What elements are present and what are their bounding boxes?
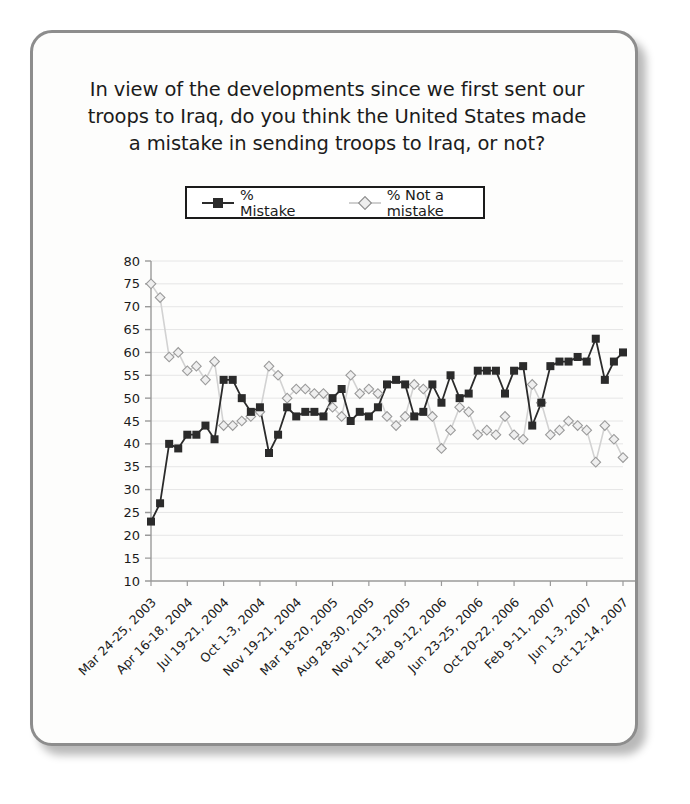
line-chart: 101520253035404550556065707580Mar 24-25,… <box>33 33 638 746</box>
data-point-not-a-mistake <box>500 412 510 422</box>
data-point-mistake <box>192 431 200 439</box>
data-point-mistake <box>247 408 255 416</box>
data-point-not-a-mistake <box>364 384 374 394</box>
data-point-mistake <box>546 362 554 370</box>
data-point-mistake <box>592 335 600 343</box>
data-point-not-a-mistake <box>319 389 329 399</box>
y-axis-tick-label: 25 <box>123 505 140 520</box>
data-point-mistake <box>410 412 418 420</box>
end-label-mistake: 60 <box>635 344 638 362</box>
chart-canvas: 101520253035404550556065707580Mar 24-25,… <box>33 33 638 746</box>
data-point-mistake <box>555 358 563 366</box>
data-point-not-a-mistake <box>591 457 601 467</box>
data-point-mistake <box>183 431 191 439</box>
data-point-mistake <box>283 403 291 411</box>
data-point-mistake <box>338 385 346 393</box>
data-point-not-a-mistake <box>527 380 537 390</box>
data-point-mistake <box>437 399 445 407</box>
data-point-not-a-mistake <box>210 357 220 367</box>
data-point-mistake <box>356 408 364 416</box>
data-point-not-a-mistake <box>201 375 211 385</box>
data-point-mistake <box>365 412 373 420</box>
y-axis-tick-label: 70 <box>123 299 140 314</box>
data-point-mistake <box>220 376 228 384</box>
data-point-not-a-mistake <box>546 430 556 440</box>
data-point-mistake <box>301 408 309 416</box>
data-point-mistake <box>174 444 182 452</box>
data-point-mistake <box>428 380 436 388</box>
data-point-not-a-mistake <box>509 430 519 440</box>
data-point-mistake <box>619 348 627 356</box>
data-point-mistake <box>211 435 219 443</box>
data-point-mistake <box>465 390 473 398</box>
data-point-not-a-mistake <box>219 421 229 431</box>
data-point-not-a-mistake <box>173 348 183 358</box>
y-axis-tick-label: 60 <box>123 345 140 360</box>
data-point-mistake <box>601 376 609 384</box>
data-point-not-a-mistake <box>573 421 583 431</box>
data-point-mistake <box>610 358 618 366</box>
data-point-not-a-mistake <box>310 389 320 399</box>
data-point-not-a-mistake <box>491 430 501 440</box>
data-point-mistake <box>519 362 527 370</box>
data-point-mistake <box>374 403 382 411</box>
screenshot-page: In view of the developments since we fir… <box>0 0 690 804</box>
data-point-not-a-mistake <box>473 430 483 440</box>
data-point-mistake <box>229 376 237 384</box>
data-point-mistake <box>156 499 164 507</box>
data-point-not-a-mistake <box>182 366 192 376</box>
chart-card: In view of the developments since we fir… <box>30 30 638 746</box>
data-point-mistake <box>401 380 409 388</box>
data-point-not-a-mistake <box>455 402 465 412</box>
data-point-not-a-mistake <box>428 412 438 422</box>
data-point-not-a-mistake <box>192 361 202 371</box>
data-point-mistake <box>583 358 591 366</box>
data-point-not-a-mistake <box>437 444 447 454</box>
data-point-not-a-mistake <box>300 384 310 394</box>
data-point-mistake <box>565 358 573 366</box>
data-point-mistake <box>319 412 327 420</box>
data-point-mistake <box>537 399 545 407</box>
y-axis-tick-label: 40 <box>123 436 140 451</box>
data-point-mistake <box>274 431 282 439</box>
y-axis-tick-label: 30 <box>123 482 140 497</box>
data-point-mistake <box>238 394 246 402</box>
data-point-not-a-mistake <box>228 421 238 431</box>
data-point-not-a-mistake <box>482 425 492 435</box>
data-point-mistake <box>483 367 491 375</box>
y-axis-tick-label: 55 <box>123 368 140 383</box>
data-point-mistake <box>419 408 427 416</box>
data-point-not-a-mistake <box>237 416 247 426</box>
data-point-mistake <box>574 353 582 361</box>
data-point-mistake <box>383 380 391 388</box>
data-point-not-a-mistake <box>600 421 610 431</box>
data-point-not-a-mistake <box>164 352 174 362</box>
data-point-not-a-mistake <box>155 293 165 303</box>
data-point-mistake <box>329 394 337 402</box>
data-point-mistake <box>392 376 400 384</box>
data-point-mistake <box>510 367 518 375</box>
y-axis-tick-label: 15 <box>123 551 140 566</box>
data-point-not-a-mistake <box>346 370 356 380</box>
data-point-not-a-mistake <box>418 384 428 394</box>
data-point-mistake <box>456 394 464 402</box>
data-point-mistake <box>292 412 300 420</box>
data-point-mistake <box>310 408 318 416</box>
y-axis-tick-label: 65 <box>123 322 140 337</box>
y-axis-tick-label: 35 <box>123 459 140 474</box>
data-point-not-a-mistake <box>618 453 628 463</box>
data-point-mistake <box>347 417 355 425</box>
data-point-mistake <box>528 422 536 430</box>
y-axis-tick-label: 20 <box>123 528 140 543</box>
data-point-mistake <box>147 518 155 526</box>
data-point-not-a-mistake <box>582 425 592 435</box>
data-point-mistake <box>165 440 173 448</box>
data-point-not-a-mistake <box>518 434 528 444</box>
y-axis-tick-label: 10 <box>123 574 140 589</box>
data-point-mistake <box>492 367 500 375</box>
y-axis-tick-label: 45 <box>123 414 140 429</box>
data-point-mistake <box>265 449 273 457</box>
data-point-mistake <box>447 371 455 379</box>
data-point-mistake <box>501 390 509 398</box>
data-point-not-a-mistake <box>355 389 365 399</box>
